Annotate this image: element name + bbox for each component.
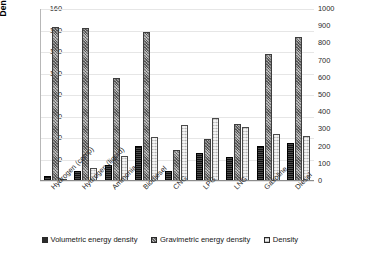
legend-item[interactable]: Volumetric energy density xyxy=(42,235,137,244)
bar-volumetric xyxy=(287,143,294,181)
bar-volumetric xyxy=(257,146,264,181)
bar-gravimetric xyxy=(234,124,241,181)
bar-volumetric xyxy=(226,157,233,181)
x-axis-category: LNG xyxy=(223,183,253,229)
bar-group xyxy=(253,9,283,181)
y-axis-right-tick: 900 xyxy=(318,22,344,30)
y-axis-right-tick: 100 xyxy=(318,160,344,168)
y-axis-right-tick: 800 xyxy=(318,39,344,47)
bar-volumetric xyxy=(135,146,142,181)
bar-group xyxy=(131,9,161,181)
y-axis-right-tick: 400 xyxy=(318,108,344,116)
y-axis-right-tick: 500 xyxy=(318,91,344,99)
bar-group xyxy=(192,9,222,181)
legend-item[interactable]: Density xyxy=(264,235,298,244)
x-axis-category: Gasoline xyxy=(253,183,283,229)
legend-label: Density xyxy=(273,235,298,244)
bar-chart: Density (kg/m³) Volumetric (MJ/l) and gr… xyxy=(0,0,379,254)
bar-density xyxy=(242,127,249,181)
bar-volumetric xyxy=(196,153,203,181)
y-axis-right-tick: 0 xyxy=(318,177,344,185)
x-axis-category: Ammonia xyxy=(101,183,131,229)
bar-gravimetric xyxy=(52,27,59,181)
y-axis-left-title: Density (kg/m³) xyxy=(0,0,9,40)
legend-swatch-icon xyxy=(151,237,157,243)
bar-gravimetric xyxy=(143,32,150,181)
x-axis-category: LPG xyxy=(192,183,222,229)
legend-swatch-icon xyxy=(42,237,48,243)
legend-label: Volumetric energy density xyxy=(51,235,138,244)
bar-group xyxy=(162,9,192,181)
bar-gravimetric xyxy=(295,37,302,181)
bar-density xyxy=(212,118,219,181)
y-axis-right-title: Volumetric (MJ/l) and gravimetric (MJ/kg… xyxy=(357,0,375,8)
x-axis-category: CNG xyxy=(162,183,192,229)
x-axis-category-labels: Hydrogen (comp)Hydrogen (liquid)AmmoniaB… xyxy=(40,183,314,229)
y-axis-right-tick: 1000 xyxy=(318,5,344,13)
x-axis-category: Biodiesel xyxy=(131,183,161,229)
bar-group xyxy=(223,9,253,181)
y-axis-right-tick: 300 xyxy=(318,125,344,133)
y-axis-right-tick: 200 xyxy=(318,143,344,151)
bar-group xyxy=(40,9,70,181)
y-axis-right-tick: 700 xyxy=(318,57,344,65)
x-axis-category: Hydrogen (comp) xyxy=(40,183,70,229)
legend-swatch-icon xyxy=(264,237,270,243)
bar-gravimetric xyxy=(265,54,272,181)
legend-label: Gravimetric energy density xyxy=(160,235,250,244)
legend-item[interactable]: Gravimetric energy density xyxy=(151,235,250,244)
chart-legend: Volumetric energy densityGravimetric ene… xyxy=(42,235,342,244)
y-axis-right-tick: 600 xyxy=(318,74,344,82)
x-axis-category: Hydrogen (liquid) xyxy=(70,183,100,229)
bar-gravimetric xyxy=(113,78,120,181)
bar-group xyxy=(284,9,314,181)
x-axis-category: Diesel xyxy=(284,183,314,229)
